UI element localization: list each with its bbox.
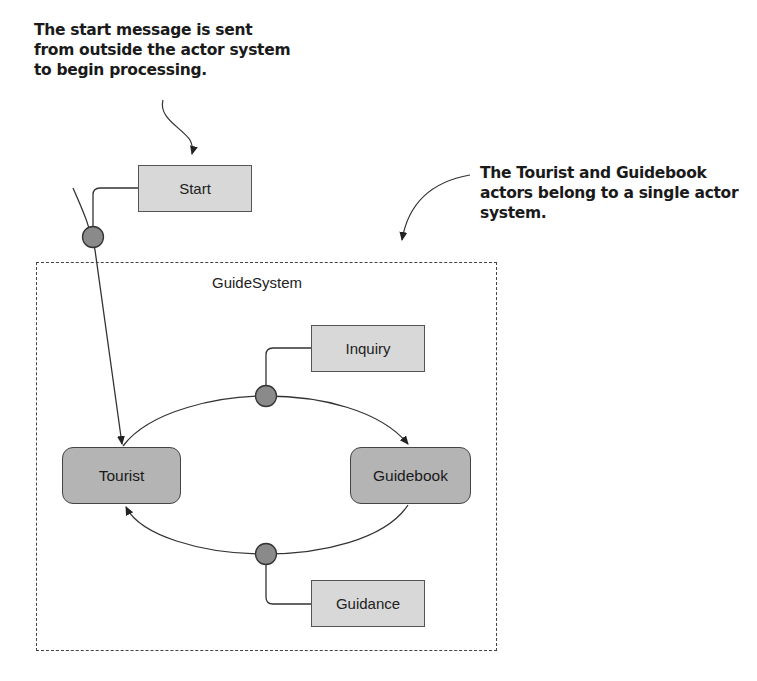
system-note-arrow — [402, 175, 470, 240]
system-annotation: The Tourist and Guidebook actors belong … — [480, 163, 750, 223]
actor-system-label: GuideSystem — [212, 274, 302, 291]
message-start: Start — [138, 165, 252, 212]
message-inquiry: Inquiry — [311, 325, 425, 372]
start-note-arrow — [162, 100, 192, 154]
actor-tourist: Tourist — [62, 447, 181, 504]
start-connector-dot — [83, 227, 104, 248]
start-annotation: The start message is sent from outside t… — [34, 20, 294, 80]
actor-guidebook: Guidebook — [350, 447, 471, 504]
start-connector — [93, 188, 138, 227]
message-guidance: Guidance — [311, 580, 425, 627]
